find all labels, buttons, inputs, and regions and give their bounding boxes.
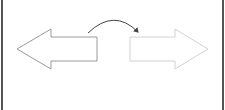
diagram-canvas [0, 0, 225, 110]
diagram-frame [0, 0, 225, 110]
right-arrow-icon [130, 29, 208, 69]
curved-arrow-icon [88, 20, 138, 33]
left-arrow-icon [17, 29, 97, 69]
